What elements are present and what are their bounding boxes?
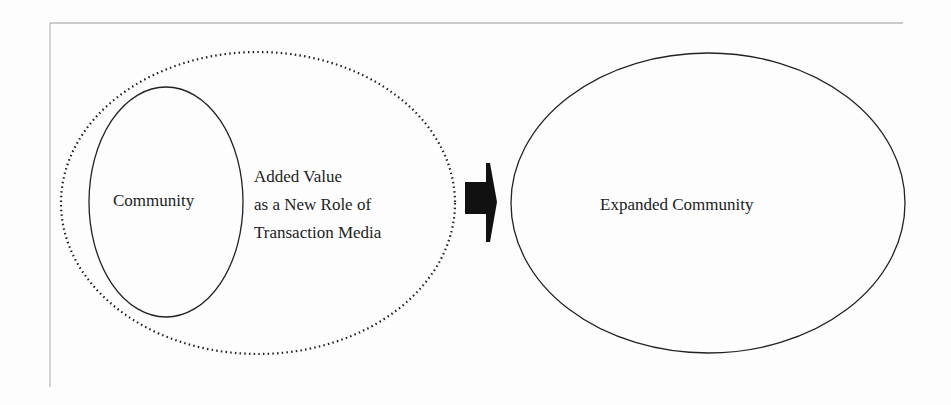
community-label: Community <box>113 190 194 211</box>
added-value-line-1: Added Value <box>254 166 342 187</box>
right-arrow-icon <box>465 163 497 242</box>
added-value-line-3: Transaction Media <box>254 222 381 243</box>
added-value-line-2: as a New Role of <box>254 194 371 215</box>
expanded-community-label: Expanded Community <box>600 194 753 215</box>
